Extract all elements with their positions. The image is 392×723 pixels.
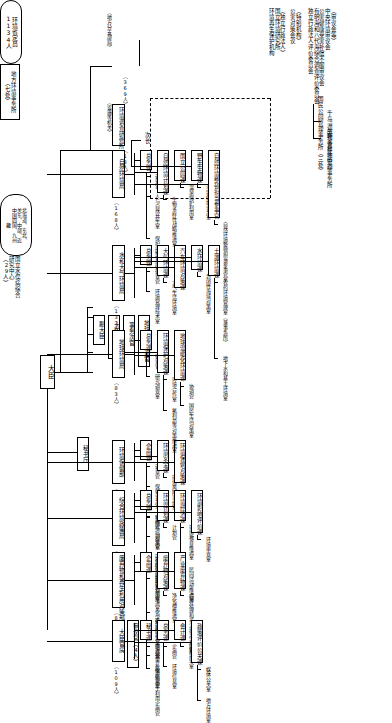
connector-h: [134, 352, 157, 353]
connector-h: [47, 354, 112, 355]
bureau-header-3[interactable]: 地球环境局: [112, 330, 125, 378]
division-3-2[interactable]: 地球温暖化环境课: [174, 330, 186, 380]
item-4-3-0[interactable]: 环境审查室: [201, 537, 210, 562]
item-6-0-0[interactable]: 调查官: [150, 644, 159, 659]
node-park-child-1[interactable]: 生物多样性中心: [322, 128, 332, 174]
division-0-4[interactable]: 自然环境整顿担当参事官: [208, 150, 220, 218]
division-6-2[interactable]: 会计课: [174, 620, 186, 640]
item-1-0-1[interactable]: 环境管理技术室: [150, 289, 159, 324]
connector-h: [125, 174, 134, 175]
connector-h: [47, 641, 112, 642]
connector-h: [180, 187, 184, 188]
connector-h: [146, 238, 150, 239]
headcount-label: 环境省定员: [11, 4, 17, 60]
connector-h: [180, 523, 181, 524]
item-4-1-0[interactable]: 计划官: [167, 525, 176, 540]
item-0-2-0[interactable]: 温泉保护利用室: [184, 185, 193, 220]
dashed-top: [150, 98, 270, 99]
connector-h: [214, 220, 215, 221]
node-local-env-office[interactable]: 地方环境事务所 （七处）: [0, 64, 20, 120]
bureau-header-1[interactable]: 水和大气环境局: [112, 245, 125, 301]
regions-link: [139, 40, 140, 66]
connector-h: [197, 539, 201, 540]
connector-v: [163, 375, 164, 410]
division-0-3[interactable]: 野生生物课: [191, 150, 203, 181]
bureau-header-0[interactable]: 自然环境局: [112, 150, 125, 198]
connector-h: [134, 355, 174, 356]
node-minister[interactable]: 大臣: [40, 355, 55, 389]
connector-h: [125, 518, 134, 519]
connector-v: [134, 333, 135, 375]
bureau-header-6[interactable]: 大臣官房: [112, 620, 125, 662]
division-2-0[interactable]: 企画课: [140, 440, 152, 460]
connector-h: [180, 595, 184, 596]
connector-h: [214, 224, 218, 225]
item-3-1-1[interactable]: 氟利昂等对策推进室: [167, 408, 176, 453]
division-6-3[interactable]: 政策评价公关课: [191, 620, 203, 663]
bureau-count-0: （168人）: [113, 200, 118, 233]
item-6-3-0[interactable]: 媒体公关室: [201, 667, 210, 692]
councils-heading: （审议会等）: [330, 8, 336, 86]
item-5-1-0[interactable]: 净化槽推进室: [167, 593, 176, 623]
item-6-1-1[interactable]: 环境信息室: [167, 664, 176, 689]
item-1-4-1[interactable]: 地下水和基土环境室: [218, 356, 227, 401]
bureau-extra-6[interactable]: 审议官（4人）: [127, 620, 139, 668]
node-secretariat[interactable]: 秘书厅: [77, 437, 89, 471]
trunk-upper: [60, 150, 61, 372]
division-0-0[interactable]: 总务课: [140, 150, 152, 170]
division-3-0[interactable]: 总务课: [140, 330, 152, 350]
division-1-0[interactable]: 总务课: [140, 245, 152, 265]
division-4-3[interactable]: 环境影响评价课: [191, 490, 203, 533]
bureau-count-6: （109人）: [113, 664, 118, 697]
connector-h: [163, 666, 167, 667]
special-org-heading: （特别机构）: [295, 8, 301, 60]
bureau-header-2[interactable]: 环境保健部: [112, 440, 125, 484]
connector-h: [47, 580, 112, 581]
connector-h: [163, 473, 164, 474]
bureau-header-5[interactable]: 废弃物和再生利用对策部: [112, 552, 125, 608]
item-5-0-2[interactable]: 废弃物再生利用企画官: [150, 666, 159, 716]
division-5-0[interactable]: 企画课: [140, 552, 152, 572]
item-0-0-1[interactable]: 人与自然共生室: [150, 194, 159, 229]
connector-h: [134, 166, 191, 167]
connector-v: [146, 267, 147, 291]
item-1-3-0[interactable]: 封闭性海域对策室: [201, 274, 210, 314]
item-6-3-1[interactable]: 地方环境室: [201, 698, 210, 723]
item-4-0-1[interactable]: 调查官: [150, 534, 159, 549]
item-3-2-0[interactable]: 协调官: [184, 384, 193, 399]
connector-h: [163, 527, 167, 528]
node-national-water-research[interactable]: 国立水俣病综合 研究中心 （29人）: [0, 256, 20, 316]
facilities-spine: [90, 66, 91, 150]
division-1-3[interactable]: 水环境课: [191, 245, 203, 270]
connector-h: [134, 512, 191, 513]
division-3-1[interactable]: 环境保护对策课: [157, 330, 169, 373]
connector-v: [197, 665, 198, 700]
item-3-1-0[interactable]: 环境合作室: [167, 377, 176, 402]
node-env-survey-lab[interactable]: 环境调查研修所: [112, 104, 125, 146]
connector-h: [125, 580, 134, 581]
division-0-1[interactable]: 自然环境计划课: [157, 150, 169, 193]
division-4-2[interactable]: 环境经济课: [174, 490, 186, 521]
connector-v: [214, 278, 215, 358]
local-env-office-count: （369人）: [118, 74, 127, 100]
nwr-line1: 国立水俣病综合: [14, 256, 20, 316]
division-1-2[interactable]: 汽车环境对策课: [174, 245, 186, 288]
connector-v: [163, 642, 164, 666]
item-3-0-1[interactable]: 研究调查室: [150, 374, 159, 399]
bureau-header-4[interactable]: 综合环境政策局: [112, 490, 125, 546]
division-5-2[interactable]: 产业废弃物课: [174, 552, 186, 589]
division-1-4[interactable]: 土壤环境课: [208, 245, 220, 276]
item-6-1-0[interactable]: 企画官: [167, 644, 176, 659]
item-0-1-0[interactable]: 生物多样性战略推进室: [167, 197, 176, 247]
post-vice-minister[interactable]: 副大臣: [93, 315, 105, 345]
connector-h: [163, 375, 164, 376]
item-3-2-1[interactable]: 国民生活对策室: [184, 403, 193, 438]
connector-h: [197, 535, 198, 536]
post-tick-5: [87, 307, 93, 308]
post-tick-2: [87, 352, 93, 353]
connector-h: [134, 184, 208, 185]
connector-h: [47, 462, 112, 463]
item-1-4-0[interactable]: 农药环境管理室（兼事务所）: [218, 280, 227, 345]
division-4-0[interactable]: 总务课: [140, 490, 152, 510]
connector-h: [163, 282, 167, 283]
